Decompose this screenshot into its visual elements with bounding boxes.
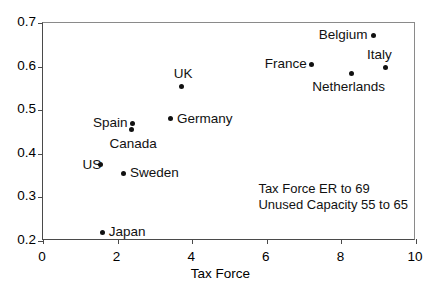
- y-tick-mark: [38, 67, 43, 68]
- y-tick-label: 0.2: [0, 233, 36, 247]
- scatter-chart: 0.20.30.40.50.60.7 0246810 JapanUSSweden…: [0, 0, 441, 290]
- x-tick-mark: [192, 239, 193, 244]
- data-point-label: Italy: [367, 48, 392, 62]
- x-tick-mark: [416, 239, 417, 244]
- x-tick-label: 0: [27, 250, 57, 264]
- x-tick-label: 8: [325, 250, 355, 264]
- data-point: [168, 116, 173, 121]
- y-tick-label: 0.3: [0, 189, 36, 203]
- data-point: [309, 62, 314, 67]
- data-point-label: Canada: [109, 137, 156, 151]
- annotation-line: Unused Capacity 55 to 65: [258, 197, 408, 213]
- data-point-label: Japan: [109, 225, 146, 239]
- data-point: [121, 171, 126, 176]
- y-tick-mark: [38, 110, 43, 111]
- data-point: [100, 230, 105, 235]
- annotation-line: Tax Force ER to 69: [258, 181, 408, 197]
- data-point-label: Netherlands: [312, 80, 385, 94]
- x-axis-title: Tax Force: [0, 266, 441, 281]
- x-tick-label: 6: [251, 250, 281, 264]
- data-point: [130, 121, 135, 126]
- y-tick-label: 0.7: [0, 15, 36, 29]
- data-point: [349, 71, 354, 76]
- y-tick-label: 0.5: [0, 102, 36, 116]
- data-point: [179, 84, 184, 89]
- plot-area: JapanUSSwedenCanadaSpainGermanyUKFranceN…: [42, 22, 415, 240]
- y-tick-mark: [38, 23, 43, 24]
- x-tick-label: 4: [176, 250, 206, 264]
- y-tick-label: 0.4: [0, 146, 36, 160]
- x-tick-label: 10: [400, 250, 430, 264]
- x-tick-label: 2: [102, 250, 132, 264]
- data-point-label: Belgium: [319, 28, 368, 42]
- data-point-label: Sweden: [130, 166, 179, 180]
- data-point-label: Germany: [177, 112, 233, 126]
- x-tick-mark: [341, 239, 342, 244]
- y-tick-mark: [38, 197, 43, 198]
- data-point-label: France: [265, 57, 307, 71]
- x-tick-mark: [43, 239, 44, 244]
- y-tick-label: 0.6: [0, 59, 36, 73]
- chart-annotation: Tax Force ER to 69Unused Capacity 55 to …: [258, 181, 408, 212]
- x-tick-mark: [267, 239, 268, 244]
- data-point: [129, 127, 134, 132]
- data-point: [371, 33, 376, 38]
- data-point-label: US: [82, 158, 101, 172]
- y-tick-mark: [38, 154, 43, 155]
- data-point: [383, 65, 388, 70]
- data-point-label: UK: [174, 67, 193, 81]
- x-tick-mark: [118, 239, 119, 244]
- data-point-label: Spain: [93, 116, 128, 130]
